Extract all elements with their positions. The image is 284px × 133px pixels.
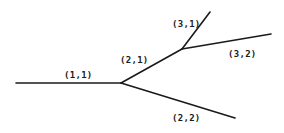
diagram-background (0, 0, 284, 133)
tree-diagram: (1,1) (2,1) (2,2) (3,1) (3,2) (0, 0, 284, 133)
edge-label-2-2: (2,2) (172, 113, 201, 123)
edge-label-1-1: (1,1) (64, 70, 93, 80)
edge-label-3-2: (3,2) (228, 49, 257, 59)
edge-label-2-1: (2,1) (120, 55, 149, 65)
edge-label-3-1: (3,1) (172, 19, 201, 29)
